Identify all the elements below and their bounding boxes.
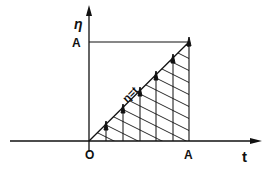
- integration-region-diagram: η A O A t η=t: [0, 0, 269, 169]
- arrow-icon: [187, 37, 191, 46]
- diagonal-line-label: η=t: [120, 84, 141, 105]
- arrow-icon: [171, 54, 175, 63]
- x-axis: [10, 138, 262, 144]
- y-tick-label-A: A: [72, 36, 81, 50]
- y-axis-label: η: [74, 16, 83, 32]
- x-axis-arrow-icon: [250, 138, 262, 144]
- origin-label: O: [85, 148, 94, 162]
- x-axis-label: t: [242, 148, 247, 165]
- y-axis-arrow-icon: [86, 5, 92, 16]
- y-axis: [86, 5, 92, 152]
- x-tick-label-A: A: [184, 148, 193, 162]
- arrow-icon: [154, 71, 158, 80]
